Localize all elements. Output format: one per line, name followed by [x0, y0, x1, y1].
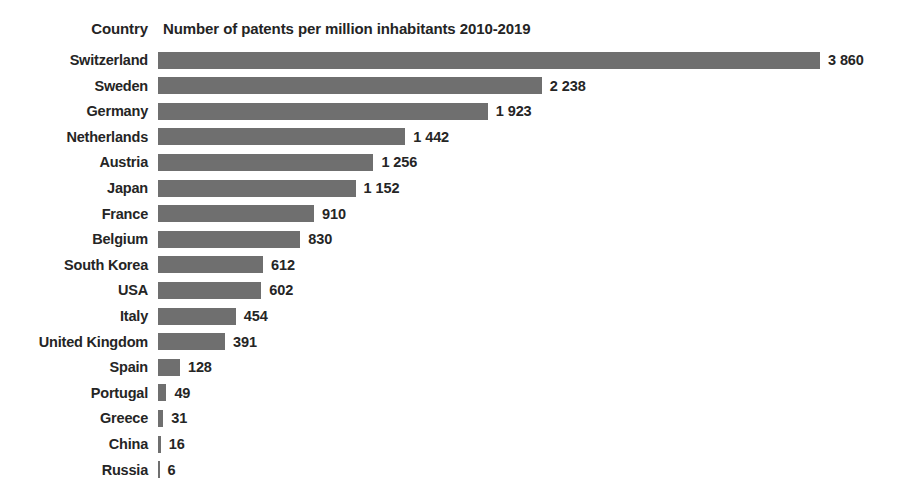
category-label: United Kingdom	[0, 330, 148, 356]
category-label: Spain	[0, 355, 148, 381]
bar-row: South Korea612	[0, 253, 912, 279]
bar	[158, 205, 314, 222]
category-label: China	[0, 432, 148, 458]
category-label: France	[0, 202, 148, 228]
bar-value-label: 49	[174, 381, 190, 407]
category-label: Greece	[0, 406, 148, 432]
chart-header: Country Number of patents per million in…	[0, 18, 912, 44]
bar	[158, 256, 263, 273]
bar-row: China16	[0, 432, 912, 458]
category-label: Germany	[0, 99, 148, 125]
category-label: Japan	[0, 176, 148, 202]
chart-title: Number of patents per million inhabitant…	[163, 18, 531, 40]
bar-row: Sweden2 238	[0, 74, 912, 100]
category-label: Belgium	[0, 227, 148, 253]
bar-value-label: 6	[168, 458, 176, 484]
bar-value-label: 391	[233, 330, 257, 356]
bar-row: Spain128	[0, 355, 912, 381]
bar-value-label: 612	[271, 253, 295, 279]
category-label: Switzerland	[0, 48, 148, 74]
bar-value-label: 16	[169, 432, 185, 458]
bar-row: Japan1 152	[0, 176, 912, 202]
plot-area: Switzerland3 860Sweden2 238Germany1 923N…	[0, 48, 912, 492]
bar	[158, 333, 225, 350]
bar-value-label: 1 256	[381, 150, 417, 176]
bar-row: Greece31	[0, 406, 912, 432]
bar-value-label: 3 860	[828, 48, 864, 74]
bar	[158, 52, 820, 69]
bar	[158, 436, 161, 453]
bar-value-label: 128	[188, 355, 212, 381]
category-label: Austria	[0, 150, 148, 176]
bar-value-label: 454	[244, 304, 268, 330]
bar-value-label: 910	[322, 202, 346, 228]
bar-row: United Kingdom391	[0, 330, 912, 356]
bar	[158, 231, 300, 248]
bar-row: Germany1 923	[0, 99, 912, 125]
header-country-label: Country	[0, 18, 148, 40]
bar-value-label: 830	[308, 227, 332, 253]
bar-row: France910	[0, 202, 912, 228]
bar-row: Russia6	[0, 458, 912, 484]
bar	[158, 103, 488, 120]
patents-bar-chart: Country Number of patents per million in…	[0, 0, 912, 500]
bar-value-label: 2 238	[550, 74, 586, 100]
bar	[158, 128, 405, 145]
category-label: Sweden	[0, 74, 148, 100]
bar-row: Portugal49	[0, 381, 912, 407]
bar-value-label: 31	[171, 406, 187, 432]
category-label: Russia	[0, 458, 148, 484]
bar-value-label: 1 442	[413, 125, 449, 151]
bar	[158, 77, 542, 94]
category-label: Portugal	[0, 381, 148, 407]
bar-row: Netherlands1 442	[0, 125, 912, 151]
bar	[158, 410, 163, 427]
category-label: USA	[0, 278, 148, 304]
bar	[158, 154, 373, 171]
bar	[158, 282, 261, 299]
bar-row: Italy454	[0, 304, 912, 330]
bar	[158, 180, 356, 197]
bar-value-label: 602	[269, 278, 293, 304]
bar-row: USA602	[0, 278, 912, 304]
category-label: South Korea	[0, 253, 148, 279]
bar-row: Belgium830	[0, 227, 912, 253]
bar-row: Switzerland3 860	[0, 48, 912, 74]
category-label: Italy	[0, 304, 148, 330]
bar-row: Austria1 256	[0, 150, 912, 176]
category-label: Netherlands	[0, 125, 148, 151]
bar	[158, 384, 166, 401]
bar	[158, 461, 160, 478]
bar-value-label: 1 923	[496, 99, 532, 125]
bar-value-label: 1 152	[364, 176, 400, 202]
bar	[158, 308, 236, 325]
bar	[158, 359, 180, 376]
